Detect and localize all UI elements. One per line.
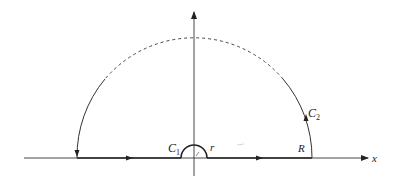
arrow-right-segment-icon bbox=[256, 156, 263, 161]
contour-diagram: C1 r C2 R x bbox=[0, 0, 396, 184]
label-c2: C2 bbox=[308, 106, 320, 122]
faint-mark bbox=[237, 144, 244, 145]
arrow-left-segment-icon bbox=[126, 156, 133, 161]
small-radius-line bbox=[196, 152, 199, 156]
label-c1: C1 bbox=[168, 141, 180, 157]
arrow-left-arc-icon bbox=[75, 150, 80, 157]
large-arc-left bbox=[77, 79, 105, 158]
label-R: R bbox=[297, 142, 305, 154]
label-r-small: r bbox=[210, 141, 215, 153]
label-x-axis: x bbox=[371, 152, 377, 164]
